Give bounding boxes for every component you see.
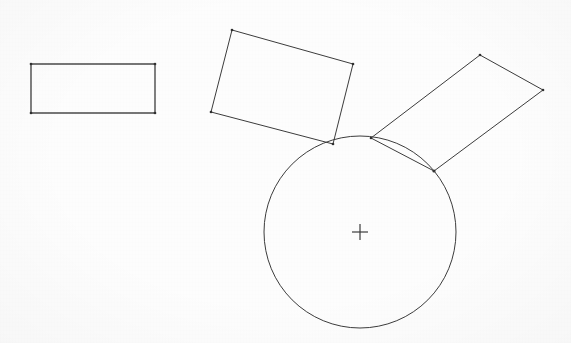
vertex-dot <box>479 54 482 57</box>
vertex-dot <box>30 63 33 66</box>
vertex-dot <box>542 89 545 92</box>
axis-aligned-rectangle-outline[interactable] <box>31 64 155 113</box>
tilted-rectangle-left-shape[interactable] <box>210 29 355 146</box>
vertex-dot <box>332 143 335 146</box>
circle-center-mark <box>352 224 368 240</box>
vertex-dot <box>154 112 157 115</box>
vertex-dot <box>154 63 157 66</box>
vertex-dot <box>30 112 33 115</box>
vertex-dot <box>210 111 213 114</box>
tilted-rectangle-right-shape[interactable] <box>370 54 545 173</box>
tilted-rectangle-right-outline[interactable] <box>371 55 543 171</box>
vertex-dot <box>352 63 355 66</box>
geometry-drawing <box>0 0 571 343</box>
circle-shape[interactable] <box>264 136 456 328</box>
drawing-canvas <box>0 0 571 343</box>
tilted-rectangle-left-outline[interactable] <box>211 30 353 144</box>
vertex-dot <box>231 29 234 32</box>
axis-aligned-rectangle-shape[interactable] <box>30 63 157 115</box>
